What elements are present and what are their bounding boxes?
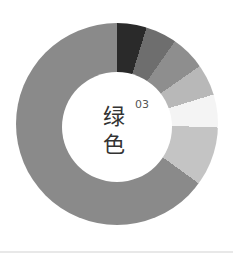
label-number: 03 [135,98,149,111]
label-char-2: 色 [103,126,125,158]
divider [0,251,233,253]
